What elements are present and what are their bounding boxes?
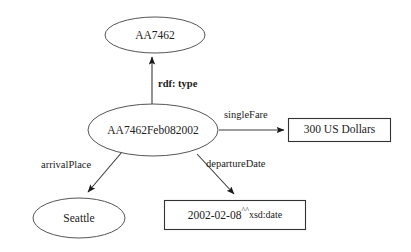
rdf-graph-diagram: AA7462 AA7462Feb082002 Seattle 300 US Do… xyxy=(0,0,411,252)
node-label-departure-date: 2002-02-08^^xsd:date xyxy=(188,206,283,220)
edge-label-departure-date: departureDate xyxy=(206,158,266,169)
edge-label-rdf-type: rdf: type xyxy=(158,78,198,89)
node-literal-single-fare[interactable]: 300 US Dollars xyxy=(289,119,391,142)
node-arrival-place-seattle[interactable]: Seattle xyxy=(33,198,125,238)
node-group: AA7462 AA7462Feb082002 Seattle 300 US Do… xyxy=(33,17,391,238)
node-label-single-fare: 300 US Dollars xyxy=(304,123,376,135)
date-value-text: 2002-02-08 xyxy=(188,208,242,220)
edge-label-arrival-place: arrivalPlace xyxy=(41,159,91,170)
node-label-resource: AA7462Feb082002 xyxy=(107,124,199,136)
node-class-aa7462[interactable]: AA7462 xyxy=(105,17,205,53)
node-label-seattle: Seattle xyxy=(63,212,94,224)
edge-arrival-place-line xyxy=(88,152,122,192)
node-label-class: AA7462 xyxy=(135,29,175,41)
edge-label-single-fare: singleFare xyxy=(224,109,268,120)
datatype-suffix-text: xsd:date xyxy=(249,209,283,220)
rdf-graph-canvas: AA7462 AA7462Feb082002 Seattle 300 US Do… xyxy=(0,0,411,252)
node-literal-departure-date[interactable]: 2002-02-08^^xsd:date xyxy=(165,201,306,230)
node-resource-aa7462feb082002[interactable]: AA7462Feb082002 xyxy=(88,104,218,156)
